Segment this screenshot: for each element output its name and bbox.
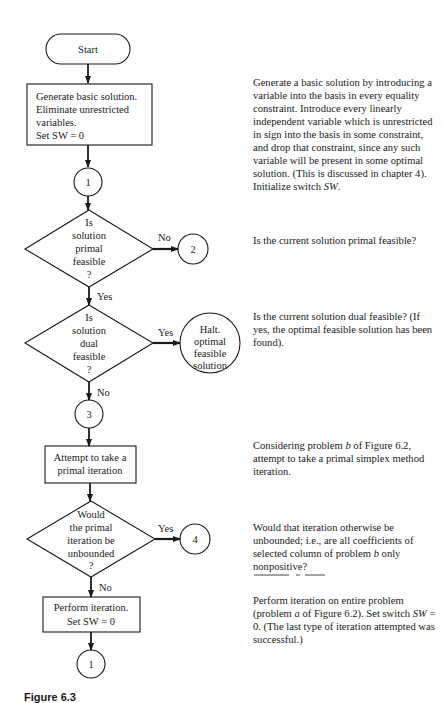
connector-2-label: 2 (190, 244, 195, 255)
dual-line-1: Is (85, 312, 93, 323)
description-attempt-b: b (345, 440, 350, 451)
generate-line-1: Generate basic solution. (36, 91, 137, 102)
primal-line-5: ? (87, 269, 92, 280)
unbounded-yes-label: Yes (158, 523, 173, 534)
primal-line-1: Is (85, 217, 93, 228)
description-perform-mid: of Figure 6.2). Set switch (302, 608, 410, 619)
figure-caption: Figure 6.3 (24, 691, 76, 703)
primal-line-2: solution (72, 230, 107, 241)
description-unbounded-b: b (374, 548, 379, 559)
dual-line-3: dual (80, 338, 98, 349)
dual-yes-label: Yes (158, 327, 173, 338)
dual-no-label: No (97, 387, 110, 398)
unbounded-line-1: Would (77, 509, 105, 520)
generate-line-3: variables. (36, 117, 77, 128)
connector-3-label: 3 (86, 409, 91, 420)
attempt-line-2: primal iteration (57, 465, 123, 476)
description-perform-a: a (295, 608, 300, 619)
generate-line-4: Set SW = 0 (36, 130, 84, 141)
description-unbounded: Would that iteration otherwise be unboun… (253, 521, 438, 577)
description-perform: Perform iteration on entire problem (pro… (253, 594, 438, 646)
description-generate-sw: SW (324, 181, 338, 192)
description-primal-text: Is the current solution primal feasible? (253, 234, 438, 247)
dual-line-2: solution (72, 325, 107, 336)
primal-no-label: No (158, 232, 171, 243)
halt-line-4: solution (193, 360, 228, 371)
unbounded-line-2: the primal (70, 522, 113, 533)
connector-1-bottom-label: 1 (88, 659, 93, 670)
description-generate: Generate a basic solution by introducing… (253, 76, 438, 193)
description-attempt-pre: Considering problem (253, 440, 343, 451)
generate-line-2: Eliminate unrestricted (36, 104, 130, 115)
dual-line-5: ? (87, 364, 92, 375)
halt-line-2: optimal (194, 336, 226, 347)
dual-line-4: feasible (73, 351, 106, 362)
description-attempt: Considering problem b of Figure 6.2, att… (253, 439, 438, 478)
unbounded-line-3: iteration be (67, 535, 115, 546)
description-primal: Is the current solution primal feasible? (253, 234, 438, 247)
attempt-line-1: Attempt to take a (54, 452, 127, 463)
perform-line-1: Perform iteration. (54, 602, 129, 613)
halt-line-1: Halt. (200, 324, 221, 335)
underline-marks (253, 573, 333, 577)
primal-yes-label: Yes (97, 291, 112, 302)
unbounded-line-4: unbounded (68, 548, 115, 559)
description-perform-sw: SW (413, 608, 427, 619)
start-label: Start (78, 44, 98, 55)
connector-4-label: 4 (192, 534, 198, 545)
halt-line-3: feasible (194, 348, 227, 359)
primal-line-4: feasible (73, 256, 106, 267)
primal-line-3: primal (75, 243, 102, 254)
connector-1-top-label: 1 (85, 177, 90, 188)
unbounded-no-label: No (99, 582, 112, 593)
unbounded-line-5: ? (89, 560, 94, 571)
description-dual-text: Is the current solution dual feasible? (… (253, 310, 438, 349)
description-generate-text: Generate a basic solution by introducing… (253, 77, 432, 192)
description-dual: Is the current solution dual feasible? (… (253, 310, 438, 349)
perform-line-2: Set SW = 0 (67, 616, 115, 627)
